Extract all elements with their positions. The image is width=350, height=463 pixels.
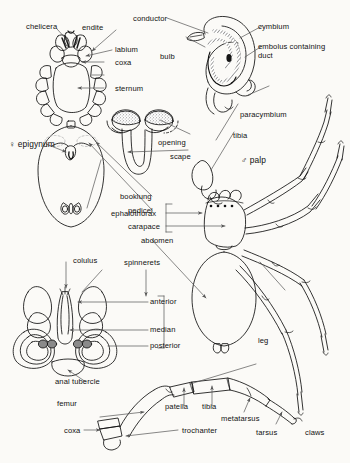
label-bulb: bulb [160, 52, 175, 61]
spinnerets-detail-art [13, 287, 117, 376]
label-scape: scape [170, 152, 191, 161]
label-coxa: coxa [115, 58, 131, 67]
label-leg-coxa: coxa [64, 426, 80, 435]
anatomy-line-art [0, 0, 350, 463]
label-booklung: booklung [120, 192, 152, 201]
label-leg: leg [258, 336, 268, 345]
label-labium: labium [115, 45, 138, 54]
label-colulus: colulus [73, 256, 97, 265]
label-leg-tibia: tibia [202, 402, 216, 411]
label-posterior: posterior [150, 341, 180, 350]
spider-anatomy-figure: chelicera endite labium coxa sternum ♀ e… [0, 0, 350, 463]
label-tarsus: tarsus [256, 428, 277, 437]
label-femur: femur [57, 399, 77, 408]
label-abdomen: abdomen [141, 236, 173, 245]
label-chelicera: chelicera [26, 22, 57, 31]
label-metatarsus: metatarsus [221, 414, 260, 423]
whole-spider-art [192, 95, 344, 415]
label-epigynum: ♀ epigynum [9, 140, 55, 149]
label-spinnerets: spinnerets [124, 258, 160, 267]
label-opening: opening [158, 138, 186, 147]
label-embolus-containing-duct: embolus containing duct [258, 42, 342, 60]
ventral-cephalothorax-art [36, 31, 106, 227]
label-cymbium: cymbium [258, 22, 289, 31]
label-median: median [150, 325, 176, 334]
label-trochanter: trochanter [182, 426, 217, 435]
male-palp-organ-art [187, 16, 255, 114]
label-claws: claws [305, 428, 325, 437]
label-conductor: conductor [133, 14, 167, 23]
label-male-palp: ♂ palp [241, 156, 266, 165]
label-sternum: sternum [115, 84, 143, 93]
label-cephalothorax: ephalothorax [111, 209, 156, 218]
label-anterior: anterior [150, 297, 177, 306]
label-palp-tibia: tibia [233, 131, 247, 140]
label-anal-tubercle: anal tubercle [55, 377, 100, 386]
label-endite: endite [82, 23, 103, 32]
label-carapace: carapace [128, 222, 160, 231]
label-patella: patella [165, 402, 188, 411]
label-paracymbium: paracymbium [240, 110, 287, 119]
